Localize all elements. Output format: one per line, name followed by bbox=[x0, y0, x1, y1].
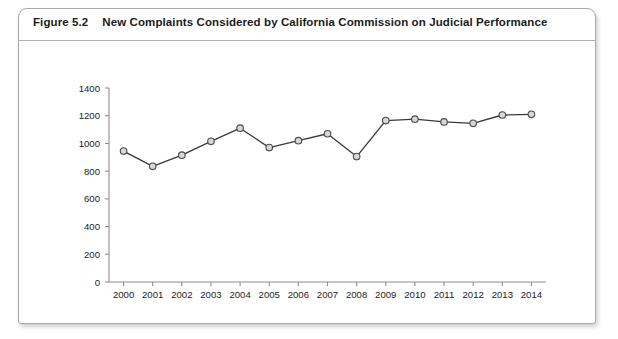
data-point-marker bbox=[324, 130, 331, 137]
x-tick-label: 2002 bbox=[171, 289, 192, 300]
y-axis: 0200400600800100012001400 bbox=[79, 83, 109, 288]
x-tick-label: 2006 bbox=[288, 289, 309, 300]
x-tick-label: 2010 bbox=[404, 289, 425, 300]
data-point-marker bbox=[120, 148, 127, 155]
line-chart: 0200400600800100012001400 20002001200220… bbox=[19, 42, 595, 323]
figure-title: Figure 5.2New Complaints Considered by C… bbox=[33, 16, 547, 28]
y-tick-label: 800 bbox=[84, 166, 100, 177]
x-axis: 2000200120022003200420052006200720082009… bbox=[109, 282, 546, 300]
data-point-marker bbox=[179, 152, 186, 159]
x-tick-label: 2000 bbox=[113, 289, 134, 300]
x-tick-label: 2013 bbox=[492, 289, 513, 300]
chart-plot-area: 0200400600800100012001400 20002001200220… bbox=[19, 42, 595, 323]
x-tick-label: 2005 bbox=[259, 289, 280, 300]
data-point-marker bbox=[353, 153, 360, 160]
y-tick-label: 0 bbox=[95, 277, 100, 288]
y-tick-label: 1400 bbox=[79, 83, 100, 94]
y-tick-label: 600 bbox=[84, 193, 100, 204]
data-point-marker bbox=[528, 111, 535, 118]
x-tick-label: 2003 bbox=[200, 289, 221, 300]
data-point-marker bbox=[266, 144, 273, 151]
x-tick-label: 2001 bbox=[142, 289, 163, 300]
x-tick-label: 2004 bbox=[229, 289, 251, 300]
x-tick-label: 2014 bbox=[521, 289, 543, 300]
data-point-marker bbox=[149, 163, 156, 170]
data-point-marker bbox=[295, 137, 302, 144]
y-tick-label: 1200 bbox=[79, 110, 100, 121]
data-point-marker bbox=[237, 125, 244, 132]
data-point-marker bbox=[412, 116, 419, 123]
x-tick-label: 2009 bbox=[375, 289, 396, 300]
x-tick-label: 2012 bbox=[462, 289, 483, 300]
figure-number: Figure 5.2 bbox=[33, 16, 88, 28]
y-tick-label: 1000 bbox=[79, 138, 100, 149]
data-point-marker bbox=[441, 119, 448, 126]
data-point-marker bbox=[208, 138, 215, 145]
x-tick-label: 2008 bbox=[346, 289, 367, 300]
figure-caption-text: New Complaints Considered by California … bbox=[102, 16, 547, 28]
data-series bbox=[120, 111, 534, 170]
y-tick-label: 200 bbox=[84, 249, 100, 260]
figure-card: Figure 5.2New Complaints Considered by C… bbox=[18, 8, 596, 324]
x-tick-label: 2007 bbox=[317, 289, 338, 300]
x-tick-label: 2011 bbox=[434, 289, 455, 300]
figure-header: Figure 5.2New Complaints Considered by C… bbox=[19, 9, 595, 41]
y-tick-label: 400 bbox=[84, 221, 100, 232]
data-point-marker bbox=[470, 120, 477, 127]
data-point-marker bbox=[382, 117, 389, 124]
data-point-marker bbox=[499, 112, 506, 119]
